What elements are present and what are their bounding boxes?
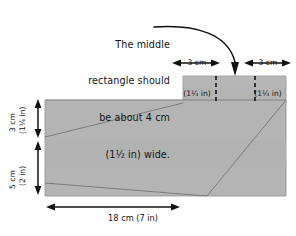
dim-label-top-right-metric: 3 cm bbox=[241, 58, 295, 68]
dim-label-top-left-imperial: (1¼ in) bbox=[170, 89, 224, 99]
dim-label-left-lower-imperial: (2 in) bbox=[18, 166, 28, 186]
dim-label-bottom: 18 cm (7 in) bbox=[78, 213, 188, 224]
callout-note: The middle rectangle should be about 4 c… bbox=[34, 14, 170, 186]
callout-line-3: be about 4 cm bbox=[34, 112, 170, 124]
dim-label-left-upper-imperial: (1¼ in) bbox=[18, 107, 28, 134]
callout-line-2: rectangle should bbox=[34, 75, 170, 87]
diagram-canvas: The middle rectangle should be about 4 c… bbox=[0, 0, 296, 236]
dim-label-left-upper-metric: 3 cm bbox=[8, 113, 18, 132]
dim-arrow-bottom bbox=[46, 204, 180, 211]
callout-arrow-head bbox=[231, 62, 239, 76]
dim-label-top-right: 3 cm (1¼ in) bbox=[241, 39, 295, 118]
callout-line-1: The middle bbox=[34, 39, 170, 51]
dim-label-top-right-imperial: (1¼ in) bbox=[241, 89, 295, 99]
dim-label-top-left: 3 cm (1¼ in) bbox=[170, 39, 224, 118]
dim-label-top-left-metric: 3 cm bbox=[170, 58, 224, 68]
dim-label-left-lower-metric: 5 cm bbox=[8, 170, 18, 189]
callout-line-4: (1½ in) wide. bbox=[34, 149, 170, 161]
